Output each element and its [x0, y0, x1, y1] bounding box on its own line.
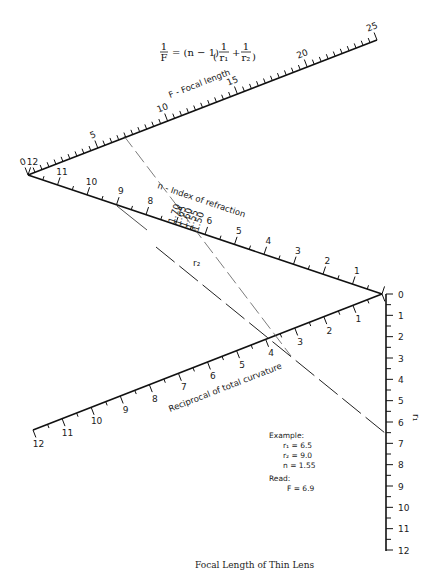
svg-text:): ): [252, 51, 256, 62]
r1-title: r₁: [411, 414, 421, 422]
svg-text:12: 12: [27, 157, 38, 167]
svg-text:10: 10: [155, 101, 170, 115]
svg-text:5: 5: [398, 396, 404, 406]
svg-text:r₂: r₂: [242, 52, 251, 63]
svg-text:F: F: [161, 52, 168, 63]
example-box: Example: r₁ = 6.5 r₂ = 9.0 n = 1.55 Read…: [269, 431, 316, 494]
svg-text:0: 0: [398, 290, 404, 300]
example-r1: r₁ = 6.5: [269, 441, 316, 451]
svg-text:3: 3: [398, 354, 404, 364]
svg-text:+: +: [232, 47, 240, 58]
svg-text:9: 9: [398, 482, 404, 492]
svg-text:5: 5: [236, 226, 242, 236]
svg-text:(: (: [213, 51, 217, 62]
svg-text:9: 9: [118, 186, 124, 196]
svg-text:7: 7: [398, 439, 404, 449]
svg-text:8: 8: [398, 460, 404, 470]
svg-text:5: 5: [88, 129, 97, 140]
svg-text:10: 10: [86, 177, 98, 187]
svg-text:8: 8: [148, 196, 154, 206]
svg-text:5: 5: [239, 360, 245, 370]
svg-text:1: 1: [161, 41, 167, 52]
svg-text:25: 25: [365, 20, 379, 33]
svg-text:10: 10: [398, 503, 410, 513]
svg-text:3: 3: [295, 246, 301, 256]
svg-text:6: 6: [210, 371, 216, 381]
example-heading: Example:: [269, 431, 316, 441]
svg-text:6: 6: [207, 216, 213, 226]
svg-text:1: 1: [398, 311, 404, 321]
svg-text:7: 7: [181, 382, 187, 392]
r1-scale: 0123456789101112: [386, 290, 410, 556]
example-n: n = 1.55: [269, 461, 316, 471]
index-of-refraction-marks: 1.701.651.601.551.50: [166, 202, 206, 232]
read-heading: Read:: [269, 474, 316, 484]
svg-text:1: 1: [221, 41, 227, 52]
figure-caption: Focal Length of Thin Lens: [195, 560, 314, 570]
svg-text:1: 1: [243, 41, 249, 52]
svg-text:10: 10: [91, 416, 103, 426]
svg-text:12: 12: [398, 546, 409, 556]
example-result: F = 6.9: [269, 484, 316, 494]
lens-formula: 1 F = (n − 1) ( 1 r₁ + 1 r₂ ): [160, 41, 256, 63]
svg-text:8: 8: [152, 394, 158, 404]
reciprocal-curvature-scale: 121110987654321: [33, 294, 385, 449]
r2-title: r₂: [193, 258, 201, 268]
svg-text:1: 1: [355, 314, 361, 324]
focal-length-scale: 0510152025: [18, 20, 379, 175]
example-r2: r₂ = 9.0: [269, 451, 316, 461]
svg-text:3: 3: [297, 337, 303, 347]
svg-text:11: 11: [62, 428, 73, 438]
svg-text:2: 2: [325, 256, 331, 266]
r2-scale: 121110987654321: [27, 157, 385, 294]
svg-text:2: 2: [326, 326, 332, 336]
svg-text:r₁: r₁: [220, 52, 229, 63]
svg-text:9: 9: [123, 405, 129, 415]
svg-text:2: 2: [398, 332, 404, 342]
example-construction-lines: [117, 136, 385, 433]
svg-text:11: 11: [56, 167, 67, 177]
svg-text:4: 4: [268, 348, 274, 358]
svg-text:1: 1: [354, 266, 360, 276]
svg-text:12: 12: [33, 439, 44, 449]
svg-text:4: 4: [266, 236, 272, 246]
svg-text:6: 6: [398, 418, 404, 428]
svg-text:4: 4: [398, 375, 404, 385]
svg-text:11: 11: [398, 524, 409, 534]
formula-text: = (n − 1): [172, 47, 219, 58]
svg-text:20: 20: [295, 47, 310, 61]
